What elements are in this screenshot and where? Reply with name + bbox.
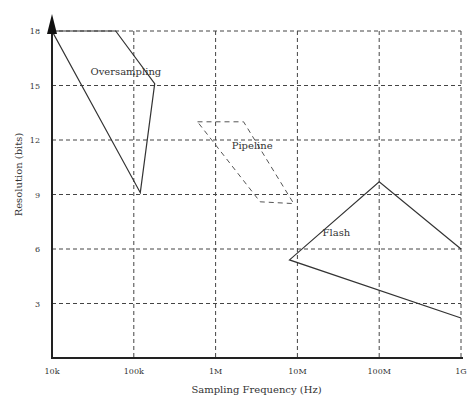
x-tick-label: 10M [288,367,306,376]
x-tick-label: 100M [367,367,390,376]
series-flash-label: Flash [323,227,351,238]
series-pipeline-label: Pipeline [232,140,273,151]
series-oversampling-shape [52,31,155,193]
series-oversampling-label: Oversampling [90,66,161,77]
chart: 10k100k1M10M100M1G369121518 Oversampling… [0,0,474,407]
tick-labels: 10k100k1M10M100M1G369121518 [30,27,467,376]
series-flash-shape [290,182,462,318]
series-pipeline-shape [198,122,294,204]
y-tick-label: 3 [35,300,40,309]
grid [52,31,461,358]
y-tick-label: 12 [30,136,40,145]
x-tick-label: 10k [44,367,59,376]
y-axis-arrow-icon [47,14,57,34]
x-axis-title: Sampling Frequency (Hz) [191,384,321,395]
y-axis-title: Resolution (bits) [13,133,24,217]
x-tick-label: 1G [455,367,466,376]
y-tick-label: 6 [35,245,40,254]
region-labels: OversamplingPipelineFlash [90,66,350,239]
y-tick-label: 15 [30,82,40,91]
x-tick-label: 1M [209,367,222,376]
x-tick-label: 100k [124,367,144,376]
y-tick-label: 9 [35,191,40,200]
y-tick-label: 18 [30,27,40,36]
